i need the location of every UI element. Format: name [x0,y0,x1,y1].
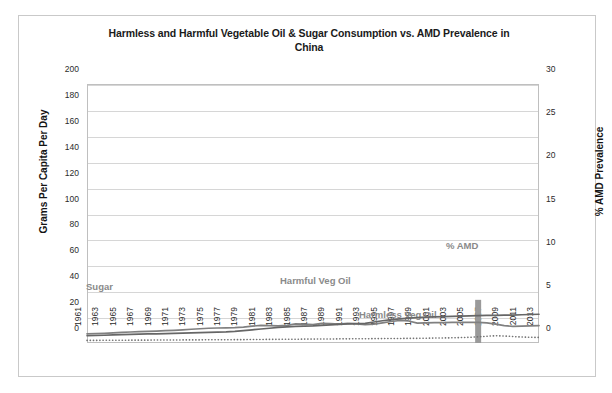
y-tick-primary: 60 [45,245,79,255]
gridline [88,266,538,267]
x-tick: 2009 [490,307,500,347]
y-axis-label-secondary: % AMD Prevalence [594,62,605,282]
x-tick: 1983 [264,307,274,347]
x-tick: 1975 [195,307,205,347]
y-tick-primary: 160 [45,116,79,126]
y-tick-primary: 20 [45,297,79,307]
x-tick: 2003 [438,307,448,347]
x-tick: 1963 [90,307,100,347]
amd-label: % AMD [446,240,478,251]
y-tick-secondary: 30 [546,64,576,74]
x-tick: 1965 [108,307,118,347]
x-tick: 1971 [160,307,170,347]
gridline [88,189,538,190]
y-tick-primary: 40 [45,271,79,281]
x-tick: 1969 [143,307,153,347]
x-tick: 1981 [247,307,257,347]
y-tick-primary: 180 [45,90,79,100]
y-tick-secondary: 10 [546,237,576,247]
gridline [88,318,538,319]
gridline [88,292,538,293]
x-tick: 1979 [229,307,239,347]
plot-area [87,84,539,343]
y-tick-secondary: 20 [546,150,576,160]
x-tick: 1967 [125,307,135,347]
chart-frame: Harmless and Harmful Vegetable Oil & Sug… [18,15,596,377]
y-tick-secondary: 5 [546,280,576,290]
x-tick: 1973 [177,307,187,347]
harmful-veg-oil-label: Harmful Veg Oil [280,275,351,286]
chart-title-line-1: Harmless and Harmful Vegetable Oil & Sug… [79,26,539,40]
x-tick: 2011 [508,307,518,347]
x-tick: 1987 [299,307,309,347]
x-tick: 1977 [212,307,222,347]
gridline [88,85,538,86]
y-tick-secondary: 15 [546,194,576,204]
x-tick: 1991 [334,307,344,347]
x-tick: 2013 [525,307,535,347]
y-tick-primary: 80 [45,219,79,229]
y-tick-primary: 120 [45,168,79,178]
x-tick: 2005 [455,307,465,347]
x-tick: 2007 [473,307,483,347]
chart-title-line-2: China [79,40,539,54]
x-tick: 1989 [316,307,326,347]
gridline [88,111,538,112]
gridline [88,163,538,164]
gridline [88,137,538,138]
x-tick: 1985 [282,307,292,347]
y-tick-secondary: 25 [546,107,576,117]
harmless-veg-oil-label: Harmless Veg Oil [359,309,437,320]
gridline [88,215,538,216]
sugar-label: Sugar [86,281,113,292]
y-tick-primary: 140 [45,142,79,152]
y-tick-primary: 100 [45,194,79,204]
y-tick-secondary: 0 [546,323,576,333]
y-tick-primary: 200 [45,64,79,74]
chart-title: Harmless and Harmful Vegetable Oil & Sug… [79,26,539,54]
x-tick: 1961 [73,307,83,347]
